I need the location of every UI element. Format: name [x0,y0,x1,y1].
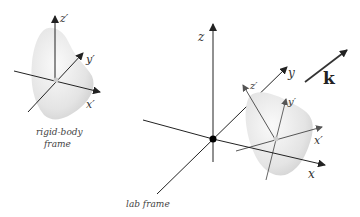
lab-body-label-x-prime: x′ [314,134,323,147]
lab-body-label-y-prime: y′ [287,96,297,107]
lab-body-origin [274,137,279,142]
lab-origin [210,136,217,143]
rigid-body-frame: z′ y′ x′ rigid-body frame [14,12,100,149]
caption-frame: frame [43,139,71,149]
wave-vector-label: k [323,68,336,88]
caption-lab-frame: lab frame [126,199,170,209]
lab-body-label-z-prime: z′ [249,80,258,91]
rigid-body-in-lab: z′ y′ x′ [236,80,323,180]
body-origin [54,78,59,83]
diagram-canvas: z′ y′ x′ rigid-body frame z y lab frame … [0,0,360,217]
label-y-prime: y′ [85,53,95,66]
lab-label-y: y [287,66,295,80]
caption-rigid-body: rigid-body [36,127,84,137]
lab-body-shape [246,92,313,175]
lab-label-x: x [308,167,315,181]
rigid-body-shape [31,28,93,120]
label-x-prime: x′ [86,98,95,111]
lab-label-z: z [197,30,205,44]
lab-axis-x-back [143,120,213,139]
label-z-prime: z′ [59,12,69,25]
